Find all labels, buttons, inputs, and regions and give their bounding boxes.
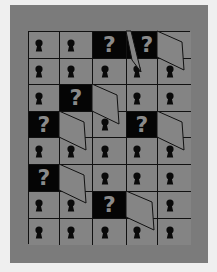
cell-r0-c2-question[interactable]: ? — [93, 32, 127, 59]
question-mark-icon: ? — [141, 34, 154, 56]
cell-r5-c4-lock[interactable] — [158, 165, 191, 192]
keyhole-icon — [101, 65, 109, 78]
question-mark-icon: ? — [103, 194, 116, 216]
cell-r1-c2-lock[interactable] — [93, 59, 127, 85]
keyhole-icon — [67, 145, 75, 158]
cell-r2-c3-lock[interactable] — [127, 85, 158, 112]
cell-r6-c2-question[interactable]: ? — [93, 192, 127, 219]
question-mark-icon: ? — [103, 34, 116, 56]
keyhole-icon — [101, 118, 109, 131]
cell-r5-c0-question[interactable]: ? — [29, 165, 60, 192]
cell-r3-c0-question[interactable]: ? — [29, 112, 60, 138]
question-mark-icon: ? — [136, 114, 149, 136]
keyhole-icon — [101, 226, 109, 239]
keyhole-icon — [101, 172, 109, 185]
cell-r5-c2-lock[interactable] — [93, 165, 127, 192]
cell-r7-c1-lock[interactable] — [60, 219, 93, 245]
keyhole-icon — [133, 172, 141, 185]
keyhole-icon — [133, 92, 141, 105]
cell-r0-c1-lock[interactable] — [60, 32, 93, 59]
keyhole-icon — [67, 65, 75, 78]
cell-r4-c0-lock[interactable] — [29, 138, 60, 165]
keyhole-icon — [35, 145, 43, 158]
cell-r6-c4-lock[interactable] — [158, 192, 191, 219]
keyhole-icon — [35, 65, 43, 78]
cell-r6-c0-lock[interactable] — [29, 192, 60, 219]
keyhole-icon — [166, 145, 174, 158]
keyhole-icon — [166, 65, 174, 78]
cell-r1-c0-lock[interactable] — [29, 59, 60, 85]
cell-r3-c3-question[interactable]: ? — [127, 112, 158, 138]
cell-r4-c3-lock[interactable] — [127, 138, 158, 165]
cell-r7-c2-lock[interactable] — [93, 219, 127, 245]
question-mark-icon: ? — [38, 114, 51, 136]
keyhole-icon — [35, 92, 43, 105]
keyhole-icon — [67, 39, 75, 52]
keyhole-icon — [166, 199, 174, 212]
cell-r2-c1-question[interactable]: ? — [60, 85, 93, 112]
keyhole-icon — [166, 92, 174, 105]
keyhole-icon — [35, 226, 43, 239]
cell-r5-c3-lock[interactable] — [127, 165, 158, 192]
cell-r1-c1-lock[interactable] — [60, 59, 93, 85]
keyhole-icon — [67, 226, 75, 239]
keyhole-icon — [67, 199, 75, 212]
keyhole-icon — [133, 226, 141, 239]
cell-r1-c3-lock[interactable] — [127, 59, 158, 85]
cell-r7-c0-lock[interactable] — [29, 219, 60, 245]
keyhole-icon — [166, 226, 174, 239]
cell-r2-c0-lock[interactable] — [29, 85, 60, 112]
keyhole-icon — [101, 145, 109, 158]
cell-r2-c4-lock[interactable] — [158, 85, 191, 112]
cell-r7-c4-lock[interactable] — [158, 219, 191, 245]
keyhole-icon — [133, 145, 141, 158]
question-mark-icon: ? — [70, 87, 83, 109]
cell-r0-c0-lock[interactable] — [29, 32, 60, 59]
cell-r4-c2-lock[interactable] — [93, 138, 127, 165]
keyhole-icon — [166, 172, 174, 185]
keyhole-icon — [35, 199, 43, 212]
keyhole-icon — [35, 39, 43, 52]
question-mark-icon: ? — [38, 167, 51, 189]
